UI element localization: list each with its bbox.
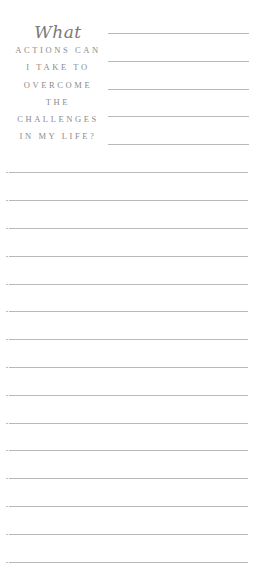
writing-line[interactable] — [9, 200, 248, 201]
writing-line[interactable] — [9, 534, 248, 535]
writing-line[interactable] — [9, 423, 248, 424]
line-marker-dot — [6, 450, 8, 451]
line-marker-dot — [6, 478, 8, 479]
writing-line-short[interactable] — [108, 89, 249, 90]
line-marker-dot — [6, 339, 8, 340]
writing-line[interactable] — [9, 172, 248, 173]
prompt-line: THE — [8, 94, 108, 111]
writing-line[interactable] — [9, 367, 248, 368]
writing-line[interactable] — [9, 506, 248, 507]
line-marker-dot — [6, 562, 8, 563]
line-marker-dot — [6, 256, 8, 257]
writing-line[interactable] — [9, 228, 248, 229]
prompt-line: CHALLENGES — [8, 111, 108, 128]
writing-line[interactable] — [9, 562, 248, 563]
line-marker-dot — [6, 534, 8, 535]
writing-line-short[interactable] — [108, 144, 249, 145]
prompt-line: ACTIONS CAN — [8, 42, 108, 59]
writing-line[interactable] — [9, 395, 248, 396]
line-marker-dot — [6, 172, 8, 173]
prompt-heading: What ACTIONS CAN I TAKE TO OVERCOME THE … — [8, 22, 108, 146]
line-marker-dot — [6, 423, 8, 424]
writing-line[interactable] — [9, 256, 248, 257]
writing-line-short[interactable] — [108, 61, 249, 62]
writing-line-short[interactable] — [108, 33, 249, 34]
writing-line-short[interactable] — [108, 116, 249, 117]
line-marker-dot — [6, 228, 8, 229]
line-marker-dot — [6, 395, 8, 396]
writing-line[interactable] — [9, 311, 248, 312]
journal-page: What ACTIONS CAN I TAKE TO OVERCOME THE … — [0, 0, 265, 579]
writing-line[interactable] — [9, 450, 248, 451]
line-marker-dot — [6, 506, 8, 507]
line-marker-dot — [6, 284, 8, 285]
prompt-line: OVERCOME — [8, 77, 108, 94]
line-marker-dot — [6, 200, 8, 201]
line-marker-dot — [6, 311, 8, 312]
prompt-line: IN MY LIFE? — [8, 128, 108, 145]
writing-line[interactable] — [9, 339, 248, 340]
prompt-script-word: What — [8, 22, 108, 42]
writing-line[interactable] — [9, 478, 248, 479]
line-marker-dot — [6, 367, 8, 368]
writing-line[interactable] — [9, 284, 248, 285]
prompt-line: I TAKE TO — [8, 59, 108, 76]
